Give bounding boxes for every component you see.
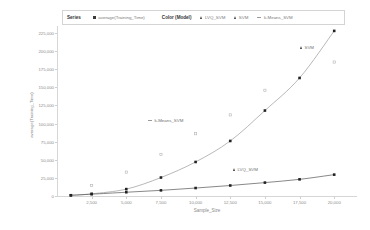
data-point-svm[interactable] — [160, 176, 163, 179]
data-point-lvq-svm[interactable] — [194, 187, 197, 190]
data-point-lvq-svm[interactable] — [229, 184, 232, 187]
series-line-svm — [71, 31, 334, 195]
data-point-svm[interactable] — [264, 109, 267, 112]
data-point-k-means-svm[interactable] — [195, 133, 197, 135]
data-point-k-means-svm[interactable] — [125, 171, 127, 173]
data-point-lvq-svm[interactable] — [90, 193, 93, 196]
triangle-icon — [233, 168, 235, 171]
data-point-lvq-svm[interactable] — [70, 194, 73, 197]
annotation-label: SVM — [305, 45, 315, 50]
chart-screenshot: Series average(Training_Time) Color (Mod… — [0, 0, 370, 230]
data-point-lvq-svm[interactable] — [333, 173, 336, 176]
data-point-k-means-svm[interactable] — [160, 153, 162, 155]
data-point-lvq-svm[interactable] — [160, 189, 163, 192]
annotation-lvq: LVQ_SVM — [233, 167, 258, 172]
data-point-svm[interactable] — [125, 188, 128, 191]
triangle-icon — [300, 46, 302, 49]
annotation-label: k-Means_SVM — [155, 118, 184, 123]
dash-line-icon — [148, 120, 152, 121]
series-line-lvq-svm — [71, 175, 334, 196]
data-point-k-means-svm[interactable] — [264, 89, 266, 91]
chart-plot-area — [0, 0, 370, 230]
data-point-lvq-svm[interactable] — [264, 181, 267, 184]
annotation-svm: SVM — [300, 45, 314, 50]
data-point-k-means-svm[interactable] — [229, 114, 231, 116]
data-point-k-means-svm[interactable] — [91, 184, 93, 186]
data-point-k-means-svm[interactable] — [333, 61, 335, 63]
data-point-lvq-svm[interactable] — [298, 178, 301, 181]
data-point-svm[interactable] — [298, 77, 301, 80]
annotation-kmeans: k-Means_SVM — [148, 118, 183, 123]
annotation-label: LVQ_SVM — [238, 167, 258, 172]
data-point-svm[interactable] — [229, 140, 232, 143]
data-point-svm[interactable] — [194, 161, 197, 164]
data-point-lvq-svm[interactable] — [125, 191, 128, 194]
data-point-svm[interactable] — [333, 30, 336, 33]
